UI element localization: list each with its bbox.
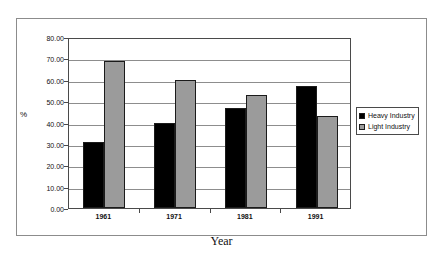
y-axis-tick-label: 20.00 [46, 163, 64, 170]
legend-swatch-light-industry-icon [359, 124, 365, 130]
y-axis-title: % [20, 110, 27, 119]
bar-heavy-industry-1981 [225, 108, 246, 208]
bar-heavy-industry-1991 [296, 86, 317, 208]
chart-screenshot: 80.0070.0060.0050.0040.0030.0020.0010.00… [0, 0, 443, 258]
legend-swatch-heavy-industry-icon [359, 113, 365, 119]
y-axis-tick-labels: 80.0070.0060.0050.0040.0030.0020.0010.00… [28, 38, 64, 209]
bar-light-industry-1991 [317, 116, 338, 208]
y-axis-tick-mark [64, 59, 68, 60]
x-axis-tick-label: 1961 [96, 213, 112, 220]
x-axis-tick-label: 1971 [166, 213, 182, 220]
y-axis-tick-mark [64, 81, 68, 82]
y-axis-tick-label: 60.00 [46, 77, 64, 84]
bar-light-industry-1981 [246, 95, 267, 208]
bar-heavy-industry-1961 [83, 142, 104, 208]
y-axis-tick-mark [64, 188, 68, 189]
y-axis-tick-label: 70.00 [46, 56, 64, 63]
y-axis-tick-mark [64, 166, 68, 167]
legend-item-heavy-industry: Heavy Industry [359, 110, 415, 121]
bars-layer [69, 39, 350, 208]
y-axis-tick-label: 80.00 [46, 35, 64, 42]
y-axis-tick-label: 10.00 [46, 184, 64, 191]
bar-light-industry-1971 [175, 80, 196, 208]
y-axis-tick-mark [64, 102, 68, 103]
y-axis-tick-label: 40.00 [46, 120, 64, 127]
y-axis-tick-mark [64, 38, 68, 39]
x-axis-tick-label: 1991 [308, 213, 324, 220]
y-axis-tick-mark [64, 145, 68, 146]
x-axis-tick-mark [280, 209, 281, 213]
y-axis-tick-mark [64, 209, 68, 210]
bar-light-industry-1961 [104, 61, 125, 208]
y-axis-tick-label: 30.00 [46, 141, 64, 148]
y-axis-tick-label: 0.00 [50, 206, 64, 213]
legend-label-heavy-industry: Heavy Industry [368, 110, 415, 121]
y-axis-tick-label: 50.00 [46, 99, 64, 106]
x-axis-tick-mark [139, 209, 140, 213]
legend-label-light-industry: Light Industry [368, 121, 410, 132]
y-axis-tick-mark [64, 124, 68, 125]
legend-item-light-industry: Light Industry [359, 121, 415, 132]
x-axis-tick-label: 1981 [237, 213, 253, 220]
x-axis-tick-mark [210, 209, 211, 213]
plot-area [68, 38, 351, 209]
x-axis-title: Year [0, 234, 443, 249]
chart-legend: Heavy Industry Light Industry [356, 107, 419, 135]
bar-heavy-industry-1971 [154, 123, 175, 209]
